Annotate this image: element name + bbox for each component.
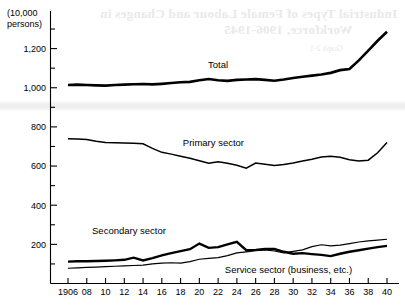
x-axis-ticks <box>68 278 387 284</box>
x-tick-label-1916: 16 <box>157 287 167 297</box>
x-tick-label-1936: 36 <box>344 287 354 297</box>
series-label-secondary: Secondary sector <box>86 225 173 238</box>
x-tick-label-1912: 12 <box>119 287 129 297</box>
series-label-text-service: Service sector (business, etc.) <box>225 264 352 275</box>
x-tick-label-1926: 26 <box>251 287 261 297</box>
series-label-primary: Primary sector <box>175 137 252 150</box>
x-tick-label-1908: 08 <box>82 287 92 297</box>
series-label-text-secondary: Secondary sector <box>92 225 166 236</box>
x-tick-label-1906: 1906 <box>58 287 78 297</box>
x-axis-tick-labels: 19060810121416182022242628303234363840 <box>58 287 392 297</box>
x-tick-label-1930: 30 <box>288 287 298 297</box>
y-axis-unit-line-1: (10,000 <box>7 8 38 18</box>
x-tick-label-1938: 38 <box>363 287 373 297</box>
series-label-text-total: Total <box>208 59 228 70</box>
y-tick-label-1000: 1,000 <box>23 83 46 93</box>
y-axis-unit-label: (10,000 persons) <box>7 8 42 29</box>
x-tick-label-1924: 24 <box>232 287 242 297</box>
line-chart-plot: (10,000 persons) 2004006008001,0001,200 … <box>0 0 405 307</box>
y-tick-label-800: 800 <box>31 122 46 132</box>
series-label-service: Service sector (business, etc.) <box>207 264 370 277</box>
y-tick-label-1200: 1,200 <box>23 44 46 54</box>
x-tick-label-1914: 14 <box>138 287 148 297</box>
x-tick-label-1940: 40 <box>382 287 392 297</box>
x-tick-label-1920: 20 <box>194 287 204 297</box>
series-label-total: Total <box>202 59 233 72</box>
x-tick-label-1922: 22 <box>213 287 223 297</box>
series-label-text-primary: Primary sector <box>183 137 244 148</box>
y-axis-tick-labels: 2004006008001,0001,200 <box>23 44 46 250</box>
x-tick-label-1934: 34 <box>326 287 336 297</box>
x-tick-label-1910: 10 <box>101 287 111 297</box>
x-tick-label-1918: 18 <box>176 287 186 297</box>
x-tick-label-1932: 32 <box>307 287 317 297</box>
y-axis-unit-line-2: persons) <box>7 19 42 29</box>
y-axis-ticks <box>51 29 58 264</box>
y-tick-label-600: 600 <box>31 161 46 171</box>
y-tick-label-400: 400 <box>31 201 46 211</box>
y-tick-label-200: 200 <box>31 240 46 250</box>
chart-container: Industrial Types of Female Labour and Ch… <box>0 0 405 307</box>
x-tick-label-1928: 28 <box>269 287 279 297</box>
